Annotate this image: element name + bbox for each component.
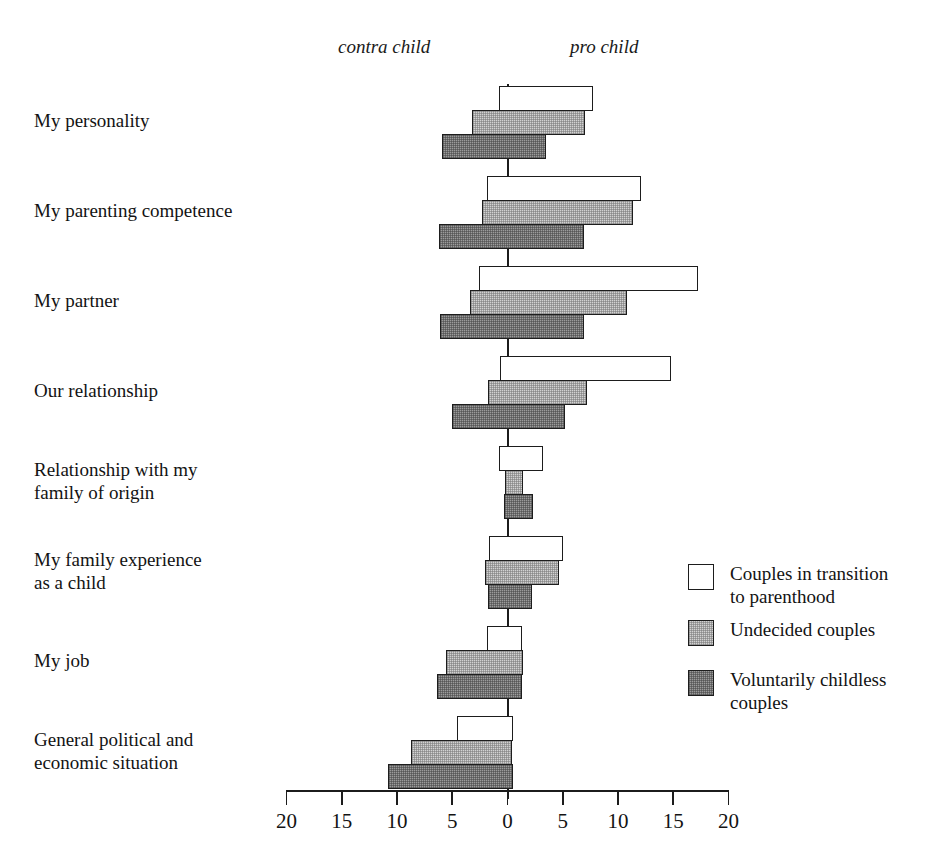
bar	[487, 626, 522, 651]
axis-tick	[396, 790, 398, 805]
axis-tick-label: 0	[502, 809, 513, 834]
axis-tick	[728, 790, 730, 805]
chart-root: contra child pro child My personalityMy …	[0, 0, 949, 868]
legend-label: Voluntarily childless couples	[730, 668, 886, 714]
x-axis: 201510505101520	[0, 790, 949, 860]
bar	[411, 740, 512, 765]
axis-tick	[507, 790, 509, 805]
axis-tick	[341, 790, 343, 805]
bar	[499, 446, 543, 471]
legend-item: Voluntarily childless couples	[688, 668, 886, 714]
axis-tick	[617, 790, 619, 805]
pro-child-label: pro child	[570, 36, 638, 58]
bar	[442, 134, 546, 159]
legend-label: Couples in transition to parenthood	[730, 562, 888, 608]
legend-swatch	[688, 620, 714, 646]
axis-tick-label: 15	[663, 809, 684, 834]
bar	[488, 380, 588, 405]
axis-tick	[451, 790, 453, 805]
axis-tick-label: 10	[387, 809, 408, 834]
axis-tick-label: 15	[331, 809, 352, 834]
bar	[446, 650, 523, 675]
bar	[504, 494, 533, 519]
bar	[452, 404, 565, 429]
bar	[487, 176, 642, 201]
bar	[457, 716, 513, 741]
axis-tick-label: 20	[276, 809, 297, 834]
bar	[472, 110, 585, 135]
axis-tick	[672, 790, 674, 805]
bar	[485, 560, 559, 585]
bar	[479, 266, 698, 291]
bar	[505, 470, 523, 495]
legend-swatch	[688, 564, 714, 590]
axis-tick	[286, 790, 288, 805]
legend-item: Undecided couples	[688, 618, 875, 646]
bar	[488, 584, 532, 609]
axis-tick-label: 10	[608, 809, 629, 834]
axis-tick	[562, 790, 564, 805]
axis-tick-label: 5	[447, 809, 458, 834]
bar	[499, 86, 593, 111]
legend-label: Undecided couples	[730, 618, 875, 641]
contra-child-label: contra child	[338, 36, 430, 58]
axis-tick-label: 20	[718, 809, 739, 834]
bar	[437, 674, 522, 699]
axis-tick-label: 5	[558, 809, 569, 834]
bar	[388, 764, 513, 789]
bar	[489, 536, 563, 561]
legend-swatch	[688, 670, 714, 696]
bar	[500, 356, 671, 381]
bar	[470, 290, 627, 315]
bar	[440, 314, 584, 339]
bar	[482, 200, 633, 225]
bar	[439, 224, 584, 249]
legend-item: Couples in transition to parenthood	[688, 562, 888, 608]
